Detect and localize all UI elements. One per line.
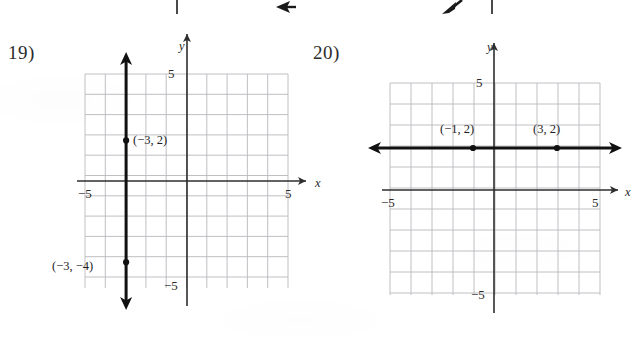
graph-19-tick-x-neg5: −5	[78, 186, 92, 202]
graph-19-y-axis-label: y	[179, 39, 185, 54]
graph-19-tick-x-5: 5	[285, 186, 292, 202]
graph-20-tick-y-5: 5	[476, 75, 483, 91]
worksheet-page: 19) y x 5 −5 5 −5 (−3, 2) (−3, −4) 20) y…	[0, 0, 635, 337]
graph-19-x-axis-label: x	[315, 176, 321, 191]
graph-19-tick-y-5: 5	[168, 66, 175, 82]
graph-20-y-axis-label: y	[487, 40, 493, 55]
graph-20-svg	[340, 0, 630, 337]
coordinate-graph-20	[340, 0, 630, 337]
graph-20-tick-y-neg5: −5	[471, 287, 485, 303]
graph-20-point-label-2: (3, 2)	[533, 122, 560, 137]
graph-19-point-label-2: (−3, −4)	[52, 259, 93, 274]
graph-20-x-axis-label: x	[625, 185, 631, 200]
graph-20-tick-x-5: 5	[592, 195, 599, 211]
graph-20-point-label-1: (−1, 2)	[440, 122, 474, 137]
graph-19-point-label-1: (−3, 2)	[133, 133, 167, 148]
graph-20-tick-x-neg5: −5	[381, 195, 395, 211]
problem-number-20: 20)	[313, 42, 340, 64]
graph-19-tick-y-neg5: −5	[164, 278, 178, 294]
